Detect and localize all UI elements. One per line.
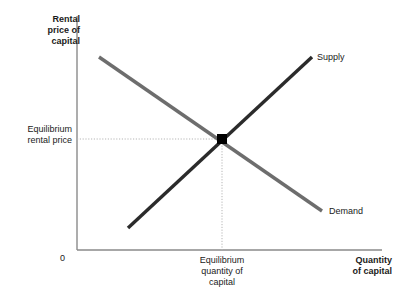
demand-curve-label: Demand: [329, 206, 363, 217]
equilibrium-quantity-label: Equilibrium quantity of capital: [176, 255, 268, 288]
equilibrium-point: [217, 134, 227, 144]
origin-label: 0: [60, 253, 65, 264]
equilibrium-price-label: Equilibrium rental price: [8, 124, 72, 146]
supply-curve-label: Supply: [317, 52, 345, 63]
supply-demand-figure: Rental price of capital Quantity of capi…: [0, 0, 398, 299]
x-axis-title: Quantity of capital: [320, 255, 392, 277]
y-axis-title: Rental price of capital: [10, 14, 80, 47]
